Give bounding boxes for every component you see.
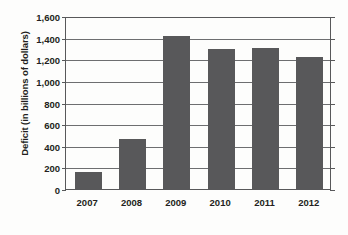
y-axis-tick-mark-right xyxy=(330,147,335,148)
bar xyxy=(75,172,102,189)
y-axis-tick-mark xyxy=(62,17,66,18)
y-axis-tick-mark-right xyxy=(330,190,335,191)
y-axis-tick-label: 1,400 xyxy=(16,33,60,44)
y-axis-tick-mark-right xyxy=(330,125,335,126)
y-axis-tick-mark-right xyxy=(330,168,335,169)
bar xyxy=(208,49,235,189)
gridline xyxy=(66,125,330,126)
bar-chart: Deficit (in billions of dollars) 0200400… xyxy=(0,0,348,235)
y-axis-tick-label: 1,000 xyxy=(16,76,60,87)
x-axis-tick-label: 2009 xyxy=(152,197,200,208)
y-axis-tick-mark xyxy=(62,190,66,191)
gridline xyxy=(66,60,330,61)
y-axis-tick-mark-right xyxy=(330,39,335,40)
y-axis-tick-label: 400 xyxy=(16,141,60,152)
y-axis-tick-label: 1,200 xyxy=(16,55,60,66)
y-axis-tick-label: 0 xyxy=(16,185,60,196)
gridline xyxy=(66,104,330,105)
y-axis-tick-mark xyxy=(62,168,66,169)
x-axis-tick-label: 2011 xyxy=(241,197,289,208)
y-axis-tick-label: 600 xyxy=(16,120,60,131)
bar xyxy=(252,48,279,189)
gridline xyxy=(66,82,330,83)
y-axis-tick-mark xyxy=(62,147,66,148)
y-axis-tick-mark xyxy=(62,39,66,40)
gridline xyxy=(66,17,330,18)
y-axis-tick-mark-right xyxy=(330,104,335,105)
y-axis-tick-label: 200 xyxy=(16,163,60,174)
y-axis-tick-label: 1,600 xyxy=(16,12,60,23)
y-axis-tick-mark xyxy=(62,60,66,61)
y-axis-tick-mark xyxy=(62,82,66,83)
gridline xyxy=(66,168,330,169)
y-axis-tick-mark-right xyxy=(330,17,335,18)
y-axis-tick-mark-right xyxy=(330,60,335,61)
y-axis-tick-mark xyxy=(62,125,66,126)
x-axis-tick-label: 2010 xyxy=(196,197,244,208)
y-axis-tick-mark xyxy=(62,104,66,105)
gridline xyxy=(66,147,330,148)
bar xyxy=(296,57,323,189)
gridline xyxy=(66,39,330,40)
bar xyxy=(119,139,146,189)
x-axis-tick-label: 2007 xyxy=(63,197,111,208)
plot-area xyxy=(65,17,331,190)
y-axis-tick-label: 800 xyxy=(16,98,60,109)
x-axis-tick-label: 2012 xyxy=(285,197,333,208)
y-axis-tick-mark-right xyxy=(330,82,335,83)
x-axis-tick-label: 2008 xyxy=(108,197,156,208)
bar xyxy=(163,36,190,189)
